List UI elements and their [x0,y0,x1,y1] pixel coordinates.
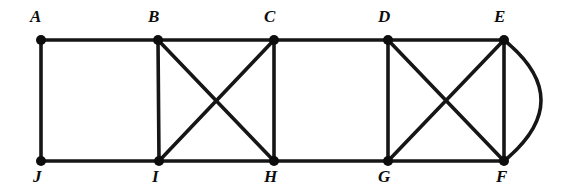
graph-vertex-h [269,156,279,166]
graph-vertex-e [499,35,509,45]
graph-edge-e-f-curved [504,40,541,161]
vertex-label-g: G [378,168,390,185]
graph-vertex-j [36,156,46,166]
graph-vertex-g [383,156,393,166]
graph-vertex-b [153,35,163,45]
vertex-label-i: I [152,168,159,185]
graph-vertex-a [36,35,46,45]
vertex-label-e: E [494,8,505,25]
vertex-label-b: B [148,8,159,25]
vertex-label-c: C [264,8,275,25]
graph-canvas [0,0,578,195]
edge-layer [41,40,541,161]
vertex-label-j: J [33,168,42,185]
vertex-label-d: D [378,8,390,25]
vertex-label-a: A [30,8,41,25]
vertex-label-h: H [264,168,277,185]
graph-vertex-d [383,35,393,45]
graph-vertex-c [269,35,279,45]
graph-edge-b-i [158,40,159,161]
graph-vertex-i [154,156,164,166]
vertex-label-f: F [496,168,507,185]
graph-figure: ABCDEJIHGF [0,0,578,195]
graph-vertex-f [499,156,509,166]
